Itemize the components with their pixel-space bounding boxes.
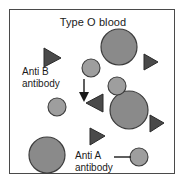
anti-b-antibody-group: [44, 48, 164, 145]
figure-title: Type O blood: [0, 16, 186, 28]
anti-b-pointer-arrowhead: [79, 92, 89, 102]
anti-a-antibody: [48, 98, 66, 116]
anti-a-antibody-label-line2: antibody: [75, 162, 113, 174]
anti-b-antibody-label-line1: Anti B: [22, 66, 49, 77]
figure-container: Type O blood Anti B antibody Anti A anti…: [0, 0, 186, 191]
anti-a-antibody: [108, 77, 126, 95]
anti-b-antibody-labeled: [86, 94, 103, 112]
anti-b-pointer: [79, 79, 89, 102]
anti-a-antibody-label: Anti A antibody: [75, 150, 113, 173]
red-blood-cell: [101, 29, 137, 65]
anti-b-antibody-label: Anti B antibody: [22, 66, 60, 89]
anti-b-antibody: [150, 115, 164, 132]
anti-b-antibody: [144, 54, 158, 70]
anti-a-antibody-labeled: [130, 148, 148, 166]
anti-b-antibody: [44, 48, 61, 67]
red-blood-cell: [29, 137, 65, 173]
anti-a-antibody: [82, 59, 100, 77]
red-blood-cell: [110, 91, 148, 129]
anti-b-antibody: [90, 128, 105, 145]
anti-a-antibody-label-line1: Anti A: [75, 150, 101, 161]
anti-b-antibody-label-line2: antibody: [22, 78, 60, 90]
